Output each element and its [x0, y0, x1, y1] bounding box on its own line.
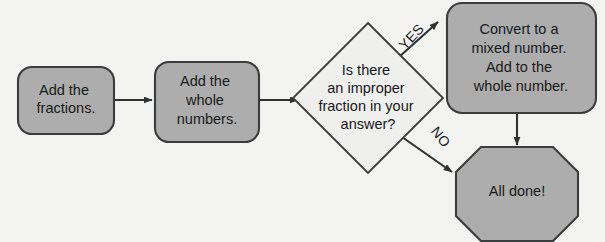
edge-label-no: NO — [428, 123, 454, 150]
node-convert-to-mixed-number[interactable]: Convert to a mixed number. Add to the wh… — [447, 3, 596, 113]
flowchart-diagram: Add the fractions. Add the whole numbers… — [0, 0, 605, 242]
node-add-fractions[interactable]: Add the fractions. — [18, 67, 114, 134]
flowchart-canvas: Add the fractions. Add the whole numbers… — [0, 0, 605, 242]
node-add-whole-numbers[interactable]: Add the whole numbers. — [155, 62, 259, 142]
all-done-label: All done! — [489, 183, 545, 199]
node-all-done[interactable]: All done! — [456, 147, 578, 241]
